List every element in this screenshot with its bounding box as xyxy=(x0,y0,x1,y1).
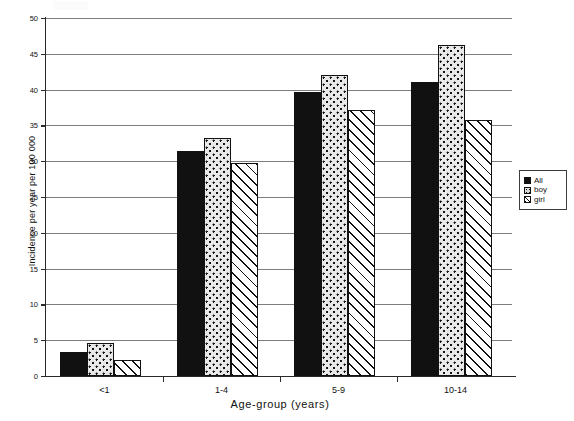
x-tick-label: <1 xyxy=(99,385,109,395)
y-tick-label: 5 xyxy=(34,336,38,345)
x-tick-label: 5-9 xyxy=(332,385,345,395)
bar-all-5-9 xyxy=(294,92,321,376)
legend-swatch-girl xyxy=(524,196,531,203)
y-tick-mark xyxy=(41,269,46,270)
y-tick-mark xyxy=(41,125,46,126)
y-tick-mark xyxy=(41,54,46,55)
x-tick-label: 10-14 xyxy=(444,385,467,395)
bar-boy-5-9 xyxy=(321,75,348,376)
x-tick-label: 1-4 xyxy=(215,385,228,395)
scan-artifact xyxy=(54,1,88,10)
bar-girl-<1 xyxy=(114,360,141,376)
y-tick-mark xyxy=(41,376,46,377)
legend-label-girl: girl xyxy=(534,196,545,204)
x-tick-mark xyxy=(280,376,281,382)
y-tick-mark xyxy=(41,304,46,305)
bar-boy-10-14 xyxy=(438,45,465,376)
y-tick-mark xyxy=(41,340,46,341)
y-tick-mark xyxy=(41,161,46,162)
gridline xyxy=(46,18,512,19)
legend-item-boy[interactable]: boy xyxy=(524,186,563,194)
y-tick-label: 0 xyxy=(34,372,38,381)
y-tick-label: 20 xyxy=(30,228,38,237)
legend-item-all[interactable]: All xyxy=(524,177,563,185)
bar-boy-<1 xyxy=(87,343,114,376)
legend-label-boy: boy xyxy=(534,186,547,194)
y-tick-mark xyxy=(41,233,46,234)
y-tick-label: 45 xyxy=(30,49,38,58)
y-tick-label: 35 xyxy=(30,121,38,130)
bar-all-10-14 xyxy=(411,82,438,376)
plot-area: 05101520253035404550 xyxy=(46,18,514,376)
bar-all-1-4 xyxy=(177,151,204,376)
y-tick-mark xyxy=(41,197,46,198)
y-tick-mark xyxy=(41,90,46,91)
y-tick-label: 50 xyxy=(30,14,38,23)
legend-item-girl[interactable]: girl xyxy=(524,196,563,204)
x-tick-mark xyxy=(163,376,164,382)
y-tick-label: 25 xyxy=(30,193,38,202)
legend-swatch-all xyxy=(524,177,531,184)
bar-chart: Incidence per year per 100 000 051015202… xyxy=(0,0,574,421)
y-tick-label: 15 xyxy=(30,264,38,273)
legend-swatch-boy xyxy=(524,187,531,194)
y-tick-mark xyxy=(41,18,46,19)
legend-label-all: All xyxy=(534,177,543,185)
y-tick-label: 10 xyxy=(30,300,38,309)
bar-all-<1 xyxy=(60,352,87,376)
x-tick-mark xyxy=(397,376,398,382)
bar-boy-1-4 xyxy=(204,138,231,376)
bar-girl-10-14 xyxy=(465,120,492,376)
bar-girl-1-4 xyxy=(231,163,258,376)
y-tick-label: 30 xyxy=(30,157,38,166)
x-axis-title: Age-group (years) xyxy=(46,398,514,410)
y-tick-label: 40 xyxy=(30,85,38,94)
chart-legend: Allboygirl xyxy=(519,170,567,210)
bar-girl-5-9 xyxy=(348,110,375,376)
